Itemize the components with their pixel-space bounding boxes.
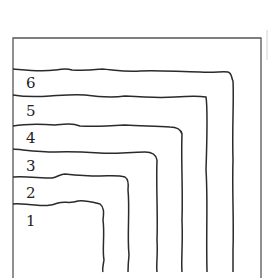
contour-line-5 xyxy=(13,95,207,272)
contour-label-3: 3 xyxy=(26,157,36,175)
contour-label-1: 1 xyxy=(26,212,36,230)
contour-label-4: 4 xyxy=(26,129,36,147)
contour-label-5: 5 xyxy=(26,102,36,120)
outer-frame xyxy=(13,38,261,278)
contour-label-6: 6 xyxy=(26,74,36,92)
contour-label-2: 2 xyxy=(26,184,36,202)
contour-line-6 xyxy=(13,69,233,272)
contour-diagram: 6 5 4 3 2 1 xyxy=(0,0,270,278)
